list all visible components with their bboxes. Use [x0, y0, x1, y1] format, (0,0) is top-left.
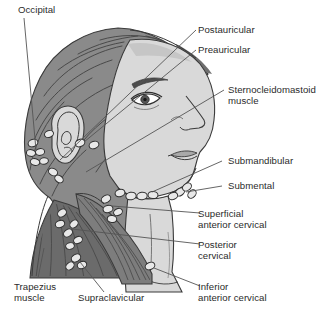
- lymph-node-diagram: Occipital Postauricular Preauricular Ste…: [0, 0, 333, 311]
- label-posterior-cervical-line1: Posterior: [198, 239, 237, 250]
- label-superficial-anterior-cervical-line2: anterior cervical: [198, 219, 267, 230]
- face: [104, 39, 215, 199]
- label-supraclavicular: Supraclavicular: [78, 292, 144, 303]
- label-superficial-anterior-cervical-line1: Superficial: [198, 208, 243, 219]
- label-preauricular: Preauricular: [198, 44, 250, 55]
- label-trapezius-line2: muscle: [14, 292, 45, 303]
- label-submandibular: Submandibular: [228, 155, 293, 166]
- label-occipital: Occipital: [18, 4, 55, 15]
- label-sternocleidomastoid-line2: muscle: [228, 95, 259, 106]
- label-inferior-anterior-cervical-line1: Inferior: [198, 281, 228, 292]
- label-inferior-anterior-cervical-line2: anterior cervical: [198, 292, 267, 303]
- label-posterior-cervical-line2: cervical: [198, 250, 231, 261]
- label-sternocleidomastoid-line1: Sternocleidomastoid: [228, 84, 316, 95]
- label-trapezius-line1: Trapezius: [14, 281, 56, 292]
- label-submental: Submental: [228, 180, 274, 191]
- label-postauricular: Postauricular: [198, 24, 255, 35]
